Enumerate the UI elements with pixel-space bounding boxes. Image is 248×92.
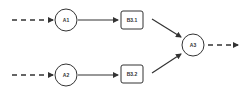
edge-b31-a3 — [152, 19, 181, 37]
node-b32-label: B3.2 — [127, 71, 138, 77]
node-a1-label: A1 — [63, 17, 70, 23]
node-a3-label: A3 — [190, 42, 197, 48]
edge-b32-a3 — [152, 54, 181, 73]
node-b32[interactable]: B3.2 — [121, 65, 143, 83]
flow-diagram: A1 B3.1 A2 B3.2 A3 — [0, 0, 248, 92]
node-b31[interactable]: B3.1 — [121, 11, 143, 29]
node-a2-label: A2 — [63, 72, 70, 78]
node-a1[interactable]: A1 — [55, 9, 77, 31]
node-a2[interactable]: A2 — [55, 64, 77, 86]
node-b31-label: B3.1 — [127, 17, 138, 23]
node-a3[interactable]: A3 — [182, 34, 204, 56]
